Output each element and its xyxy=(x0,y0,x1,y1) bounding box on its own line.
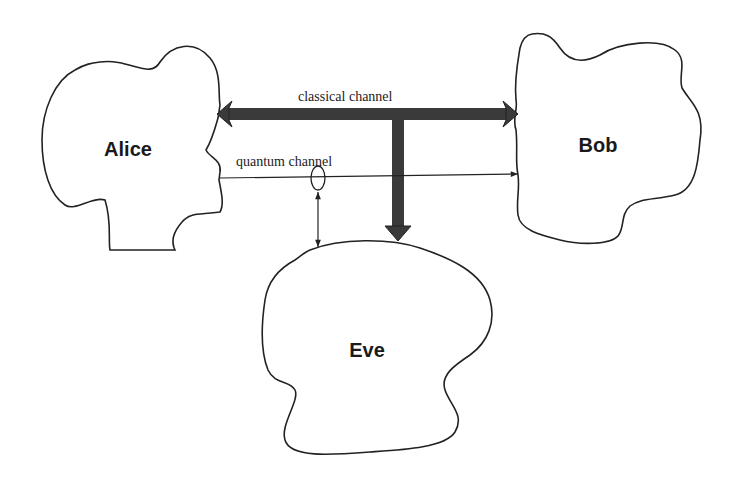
classical-channel-label: classical channel xyxy=(298,89,393,104)
arrowhead-down-icon xyxy=(385,226,411,241)
eve-node: Eve xyxy=(262,241,492,455)
bob-label: Bob xyxy=(579,134,618,156)
classical-channel-bar xyxy=(226,108,508,120)
classical-channel-arrow xyxy=(217,101,518,241)
classical-tap-bar xyxy=(392,118,404,228)
eve-label: Eve xyxy=(349,339,385,361)
quantum-channel-label: quantum channel xyxy=(236,154,332,169)
quantum-tap-ellipse xyxy=(311,166,325,190)
bob-node: Bob xyxy=(515,34,701,244)
quantum-channel-line xyxy=(219,174,518,178)
alice-label: Alice xyxy=(104,138,152,160)
qkd-diagram: Alice Bob Eve classical channel quantum … xyxy=(0,0,729,488)
alice-node: Alice xyxy=(42,46,222,250)
